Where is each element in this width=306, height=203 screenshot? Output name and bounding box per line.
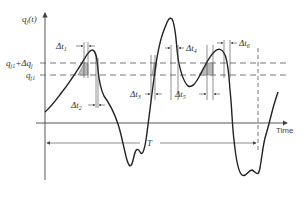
dt5-label: Δt5 [174, 89, 186, 100]
shade-region-1 [78, 63, 88, 75]
time-axis-label: Time [276, 126, 294, 135]
dt3-label: Δt3 [129, 89, 141, 100]
dt1-label: Δt1 [55, 41, 67, 52]
signal-diagram: qj(t) qj1+Δqj qj1 Δt1 Δt2 Δt3 Δt4 Δt5 Δt… [0, 0, 306, 203]
y-axis-label: qj(t) [22, 14, 37, 25]
lower-threshold-label: qj1 [26, 70, 35, 81]
period-label: T [147, 138, 153, 148]
upper-threshold-label: qj1+Δqj [6, 58, 33, 69]
dt6-label: Δt6 [238, 38, 250, 49]
dt2-label: Δt2 [70, 100, 82, 111]
dt4-label: Δt4 [185, 43, 197, 54]
